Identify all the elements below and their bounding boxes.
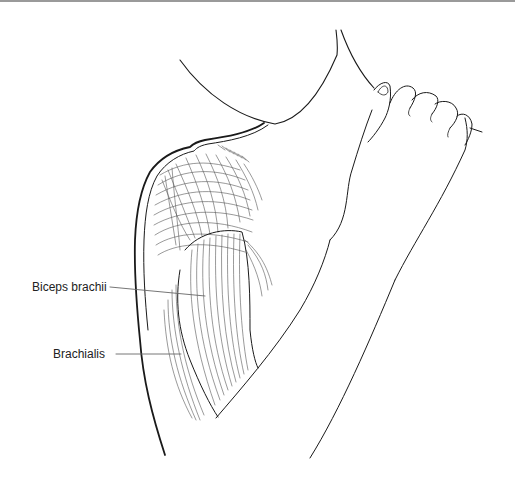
brachialis-label: Brachialis <box>53 347 105 361</box>
thumbnail <box>378 86 388 95</box>
hand-back-outline <box>395 118 467 280</box>
shoulder-top-outline <box>135 123 264 455</box>
deltoid-fibers <box>154 154 262 255</box>
hand-outline <box>330 110 372 240</box>
forearm-outer-outline <box>310 280 395 458</box>
biceps-brachii-label: Biceps brachii <box>32 280 107 294</box>
finger-creases <box>409 108 451 137</box>
neck-outline <box>341 30 374 88</box>
head-outline <box>180 30 337 124</box>
forearm-inner-outline <box>216 240 330 418</box>
biceps-fibers <box>191 234 272 405</box>
anatomy-illustration <box>0 0 515 478</box>
shoulder-hatching <box>218 145 249 162</box>
